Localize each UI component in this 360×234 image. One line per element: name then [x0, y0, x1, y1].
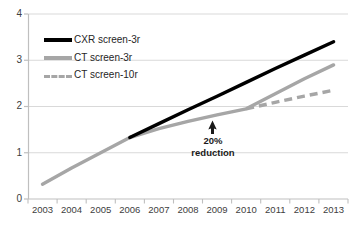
y-tick-label-0: 0: [2, 194, 22, 204]
legend-swatch-solid-black-icon: [44, 38, 72, 42]
x-tick-label-2007: 2007: [144, 205, 174, 215]
x-tick-label-2012: 2012: [289, 205, 319, 215]
legend-swatch-solid-gray-icon: [44, 56, 72, 60]
x-tick-label-2006: 2006: [115, 205, 145, 215]
x-tick-label-2003: 2003: [28, 205, 58, 215]
y-tick-label-3: 3: [2, 55, 22, 65]
x-tick-label-2004: 2004: [57, 205, 87, 215]
legend-label: CXR screen-3r: [74, 33, 140, 46]
up-arrow-icon: [208, 121, 216, 135]
x-tick-label-2013: 2013: [319, 205, 349, 215]
reduction-annotation-line1: 20%: [173, 135, 253, 147]
legend-label: CT screen-10r: [74, 68, 138, 81]
legend-swatch-dashed-gray-icon: [44, 75, 72, 78]
y-tick-label-1: 1: [2, 148, 22, 158]
legend-label: CT screen-3r: [74, 51, 132, 64]
y-axis-ticks: [24, 14, 28, 199]
x-axis-ticks: [28, 199, 348, 204]
x-tick-label-2005: 2005: [86, 205, 116, 215]
series-line-ct-screen-3r: [43, 65, 334, 184]
line-chart: 4 3 2 1 0 2003 2004 2005 2006 2007 2008 …: [0, 0, 360, 234]
x-tick-label-2010: 2010: [231, 205, 261, 215]
x-tick-label-2011: 2011: [260, 205, 290, 215]
y-tick-label-4: 4: [2, 9, 22, 19]
y-tick-label-2: 2: [2, 101, 22, 111]
series-line-cxr-screen-3r: [130, 42, 334, 138]
reduction-annotation: 20% reduction: [173, 135, 253, 158]
x-tick-label-2009: 2009: [202, 205, 232, 215]
reduction-annotation-line2: reduction: [173, 147, 253, 159]
x-tick-label-2008: 2008: [173, 205, 203, 215]
plot-area: [0, 0, 360, 234]
